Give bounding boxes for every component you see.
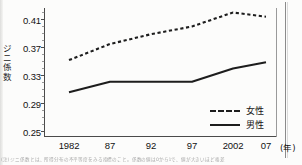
x-tick-label-87: 87 [105,140,115,151]
gini-coefficient-line-chart: ジ ニ 係 数 0.41 0.37 0.33 0.29 0.25 [0,0,302,165]
legend-label-female: 女性 [246,104,264,117]
x-tick-label-1982: 1982 [59,140,80,151]
legend-swatch-solid-icon [210,124,240,126]
legend-swatch-dashed-icon [210,110,240,112]
chart-legend: 女性 男性 [210,104,284,132]
legend-item-female: 女性 [210,104,284,118]
legend-label-male: 男性 [246,118,264,131]
legend-item-male: 男性 [210,118,284,132]
chart-footnote: (注) ジニ係数とは、所得分布の不平等度をみる指標のこと。係数の値は0から1で、… [1,157,293,162]
x-tick-label-07: 07 [261,140,271,151]
x-tick-label-2002: 2002 [223,140,244,151]
x-tick-label-97: 97 [187,140,197,151]
x-axis-unit-label: (年) [280,141,296,153]
x-tick-label-92: 92 [146,140,156,151]
data-line-female [69,13,266,61]
y-major-ticks [41,20,45,132]
scanned-page: ジ ニ 係 数 0.41 0.37 0.33 0.29 0.25 [0,0,302,165]
data-line-male [69,62,266,92]
